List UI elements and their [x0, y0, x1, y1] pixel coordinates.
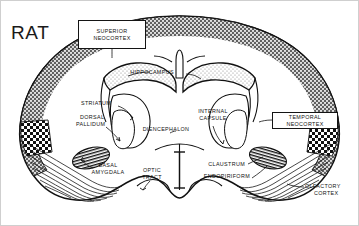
label-amygdala: AMYGDALA [92, 169, 125, 176]
label-box-superior-neocortex: SUPERIOR NEOCORTEX [78, 20, 146, 49]
label-internal: INTERNAL [198, 108, 227, 115]
label-olfactory: OLFACTORY [305, 183, 341, 190]
label-box-temporal-neocortex: TEMPORAL NEOCORTEX [272, 112, 338, 129]
page-title: RAT [11, 22, 49, 44]
label-hippocampus: HIPPOCAMPUS [130, 69, 174, 76]
label-basal: BASAL [98, 162, 117, 169]
label-optic: OPTIC [143, 167, 161, 174]
label-tract: TRACT [142, 174, 162, 181]
temporal-neocortex-line2: NEOCORTEX [286, 121, 323, 128]
label-dorsal: DORSAL [80, 114, 104, 121]
superior-neocortex-line2: NEOCORTEX [93, 35, 130, 42]
temporal-neocortex-left [21, 120, 52, 156]
label-capsule: CAPSULE [199, 115, 227, 122]
rat-brain-coronal-section-figure: RAT SUPERIOR NEOCORTEX TEMPORAL NEOCORTE… [0, 0, 359, 226]
label-claustrum: CLAUSTRUM [208, 161, 245, 168]
label-striatum: STRIATUM [81, 100, 111, 107]
label-endopiriform: ENDOPIRIFORM [204, 173, 250, 180]
label-diencephalon: DIENCEPHALON [143, 126, 190, 133]
temporal-neocortex-line1: TEMPORAL [289, 114, 321, 121]
label-cortex: CORTEX [314, 190, 338, 197]
pallidum-right [225, 110, 248, 149]
leader-optic-tract [143, 181, 150, 190]
superior-neocortex-line1: SUPERIOR [97, 28, 128, 35]
label-pallidum: PALLIDUM [76, 121, 105, 128]
